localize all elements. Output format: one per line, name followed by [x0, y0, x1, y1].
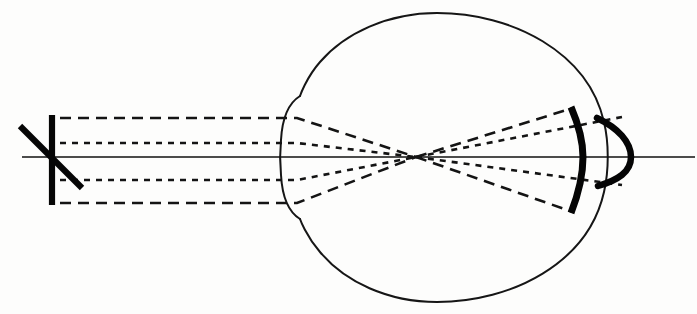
chief-ray-upper — [60, 143, 416, 157]
diagram-canvas — [0, 0, 697, 314]
chief-ray-upper-out — [416, 117, 622, 157]
chief-ray-lower-out — [416, 157, 622, 185]
retina-image-arc — [571, 107, 583, 213]
eye-optics-figure: Schematic eye ray diagram — [0, 0, 697, 314]
marginal-ray-upper-out — [416, 108, 573, 157]
posterior-image-arc — [597, 118, 631, 186]
marginal-ray-lower-out — [416, 157, 573, 212]
